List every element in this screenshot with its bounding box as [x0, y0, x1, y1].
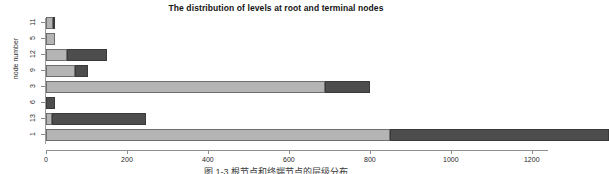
x-tick-label: 600 — [269, 156, 309, 163]
bar-row[interactable] — [46, 33, 55, 45]
bar-segment-terminal[interactable] — [75, 65, 88, 77]
x-tick-mark — [451, 150, 452, 154]
y-axis-label: node number — [12, 19, 19, 99]
y-tick-label-1: 1 — [26, 127, 40, 141]
bar-row[interactable] — [46, 129, 609, 141]
figure-caption: 图 1-3 根节点和终端节点的层级分布 — [0, 167, 552, 174]
y-tick-mark — [41, 102, 45, 103]
bar-segment-root[interactable] — [46, 129, 390, 141]
x-tick-mark — [208, 150, 209, 154]
y-tick-mark — [41, 38, 45, 39]
x-tick-label: 800 — [350, 156, 390, 163]
y-tick-mark — [41, 22, 45, 23]
bar-segment-root[interactable] — [46, 81, 325, 93]
y-tick-label-11: 11 — [26, 15, 40, 29]
y-tick-label-9: 9 — [26, 63, 40, 77]
y-tick-mark — [41, 70, 45, 71]
bar-row[interactable] — [46, 49, 107, 61]
bar-segment-root[interactable] — [46, 33, 55, 45]
bar-segment-root[interactable] — [46, 65, 75, 77]
x-tick-label: 400 — [188, 156, 228, 163]
y-tick-label-13: 13 — [26, 111, 40, 125]
x-tick-label: 1200 — [512, 156, 552, 163]
x-tick-mark — [289, 150, 290, 154]
y-tick-label-5: 5 — [26, 31, 40, 45]
y-tick-mark — [41, 54, 45, 55]
x-tick-label: 0 — [26, 156, 66, 163]
bar-segment-terminal[interactable] — [53, 17, 55, 29]
x-tick-mark — [127, 150, 128, 154]
x-tick-label: 1000 — [431, 156, 471, 163]
bar-segment-terminal[interactable] — [46, 97, 55, 109]
chart-title: The distribution of levels at root and t… — [0, 3, 552, 13]
y-tick-label-12: 12 — [26, 47, 40, 61]
y-tick-label-3: 3 — [26, 79, 40, 93]
x-tick-mark — [532, 150, 533, 154]
bar-row[interactable] — [46, 97, 55, 109]
y-tick-mark — [41, 118, 45, 119]
bar-segment-terminal[interactable] — [325, 81, 370, 93]
plot-area — [46, 16, 552, 146]
bar-row[interactable] — [46, 81, 370, 93]
bar-row[interactable] — [46, 17, 55, 29]
y-tick-label-6: 6 — [26, 95, 40, 109]
bar-segment-terminal[interactable] — [52, 113, 146, 125]
bar-segment-root[interactable] — [46, 49, 67, 61]
x-tick-label: 200 — [107, 156, 147, 163]
x-tick-mark — [46, 150, 47, 154]
x-axis-line — [46, 150, 548, 151]
x-tick-mark — [370, 150, 371, 154]
y-tick-mark — [41, 86, 45, 87]
bar-segment-terminal[interactable] — [390, 129, 609, 141]
bar-row[interactable] — [46, 113, 146, 125]
bar-segment-terminal[interactable] — [67, 49, 107, 61]
bar-row[interactable] — [46, 65, 88, 77]
bar-segment-root[interactable] — [46, 17, 53, 29]
y-tick-mark — [41, 134, 45, 135]
